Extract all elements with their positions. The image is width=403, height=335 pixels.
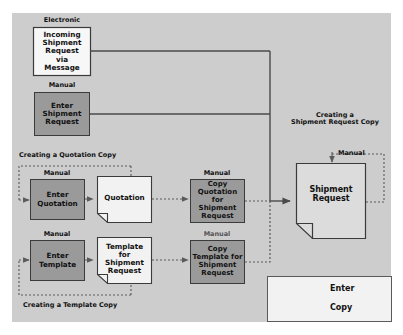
caption-enter-shipment-manual: Manual	[33, 82, 91, 89]
node-enter-shipment-request[interactable]: EnterShipmentRequest	[34, 92, 90, 136]
caption-enter-template-manual: Manual	[29, 231, 85, 238]
legend-panel	[267, 276, 392, 322]
caption-electronic: Electronic	[33, 17, 91, 24]
node-template-document[interactable]: TemplateforShipmentRequest	[98, 238, 151, 280]
edge-copy-template-to-trunk	[245, 201, 270, 262]
group-label-template-copy: Creating a Template Copy	[23, 302, 117, 309]
group-label-shipment-request-copy: Creating aShipment Request Copy	[285, 112, 385, 127]
diagram-canvas: Electronic IncomingShipmentRequestviaMes…	[0, 0, 403, 335]
node-enter-template[interactable]: EnterTemplate	[30, 240, 85, 281]
caption-shipment-request-manual: Manual	[338, 150, 365, 157]
node-copy-quotation-for-shipment-request[interactable]: CopyQuotation forShipmentRequest	[190, 179, 245, 223]
node-shipment-request-document[interactable]: ShipmentRequest	[297, 164, 365, 226]
caption-copy-quotation-manual: Manual	[189, 170, 245, 177]
node-incoming-shipment-request[interactable]: IncomingShipmentRequestviaMessage	[34, 28, 90, 75]
legend-label-copy: Copy	[330, 303, 352, 312]
caption-enter-quotation-manual: Manual	[29, 170, 85, 177]
group-label-quotation-copy: Creating a Quotation Copy	[19, 152, 116, 159]
caption-copy-template-manual: Manual	[189, 231, 245, 238]
node-quotation-document[interactable]: Quotation	[98, 177, 151, 219]
legend-label-enter: Enter	[330, 284, 354, 293]
node-enter-quotation[interactable]: EnterQuotation	[30, 179, 85, 220]
node-copy-template-for-shipment-request[interactable]: CopyTemplate forShipmentRequest	[190, 240, 245, 284]
